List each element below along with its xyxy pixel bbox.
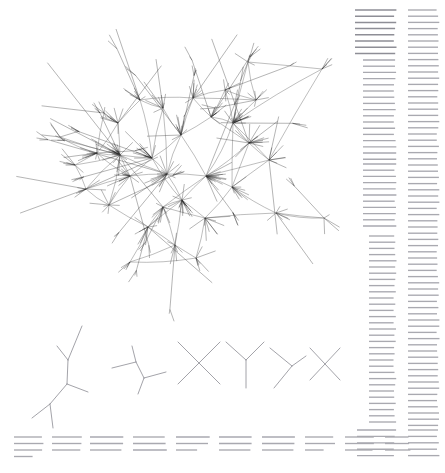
column-left xyxy=(355,10,397,456)
rule-columns-and-captions xyxy=(0,0,445,473)
figure-canvas xyxy=(0,0,445,473)
bottom-rule-groups xyxy=(14,437,410,457)
column-right xyxy=(408,10,440,456)
